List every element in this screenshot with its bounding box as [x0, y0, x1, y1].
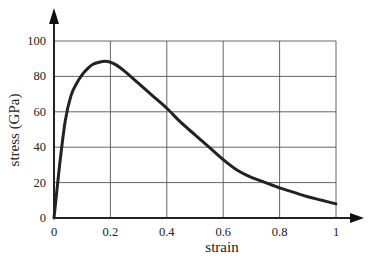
x-tick-labels: 00.20.40.60.81: [51, 225, 339, 239]
y-tick-label: 40: [34, 140, 47, 154]
stress-strain-chart: 00.20.40.60.81 020406080100 strain stres…: [0, 0, 369, 269]
y-tick-label: 20: [34, 176, 47, 190]
y-tick-label: 100: [27, 34, 46, 48]
x-axis-arrow-icon: [350, 213, 364, 223]
y-tick-labels: 020406080100: [27, 34, 46, 225]
y-tick-label: 80: [34, 69, 47, 83]
y-tick-label: 0: [40, 211, 46, 225]
x-tick-label: 0.2: [103, 225, 119, 239]
x-tick-label: 0.6: [215, 225, 231, 239]
x-tick-label: 0.4: [159, 225, 175, 239]
x-tick-label: 0.8: [272, 225, 288, 239]
x-axis-label: strain: [205, 239, 239, 255]
y-tick-label: 60: [34, 105, 47, 119]
y-axis-arrow-icon: [49, 8, 59, 24]
x-tick-label: 0: [51, 225, 57, 239]
axes: [49, 8, 364, 223]
x-tick-label: 1: [333, 225, 339, 239]
stress-strain-curve: [54, 61, 336, 218]
y-axis-label: stress (GPa): [6, 94, 23, 167]
